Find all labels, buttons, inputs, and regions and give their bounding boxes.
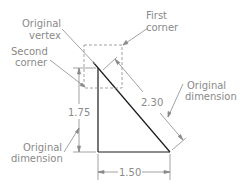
label-first-corner-1: First xyxy=(146,10,167,21)
aligned-dimension-text: 2.30 xyxy=(141,97,163,108)
label-second-corner-2: corner xyxy=(15,57,48,68)
label-second-corner-1: Second xyxy=(11,46,48,57)
dimension-line-upper xyxy=(115,59,143,92)
extension-line-lower xyxy=(172,138,186,150)
horizontal-dimension-text: 1.50 xyxy=(119,167,141,178)
leader-original-dimension-right xyxy=(168,84,183,117)
arrow-right-icon xyxy=(164,171,170,174)
label-original-dimension-right-2: dimension xyxy=(185,91,237,102)
label-original-dimension-left-2: dimension xyxy=(11,153,63,164)
label-original-dimension-right-1: Original xyxy=(187,80,226,91)
vertical-dimension-text: 1.75 xyxy=(68,107,90,118)
arrow-orig-dim-left-icon xyxy=(76,128,80,134)
label-first-corner-2: corner xyxy=(146,22,179,33)
triangle-dimension-diagram: 1.75 1.50 2.30 Original vertex Second co… xyxy=(0,0,247,187)
crossing-window xyxy=(84,45,122,88)
extension-line-upper xyxy=(103,57,117,70)
arrow-upper-icon xyxy=(115,59,120,65)
arrow-down-icon xyxy=(78,146,81,152)
label-original-vertex-2: vertex xyxy=(29,30,61,41)
label-original-dimension-left-1: Original xyxy=(23,142,62,153)
arrow-first-corner-icon xyxy=(123,41,128,46)
leader-original-vertex xyxy=(62,29,95,64)
arrow-up-icon xyxy=(78,68,81,74)
arrow-left-icon xyxy=(98,171,104,174)
label-original-vertex-1: Original xyxy=(22,18,61,29)
